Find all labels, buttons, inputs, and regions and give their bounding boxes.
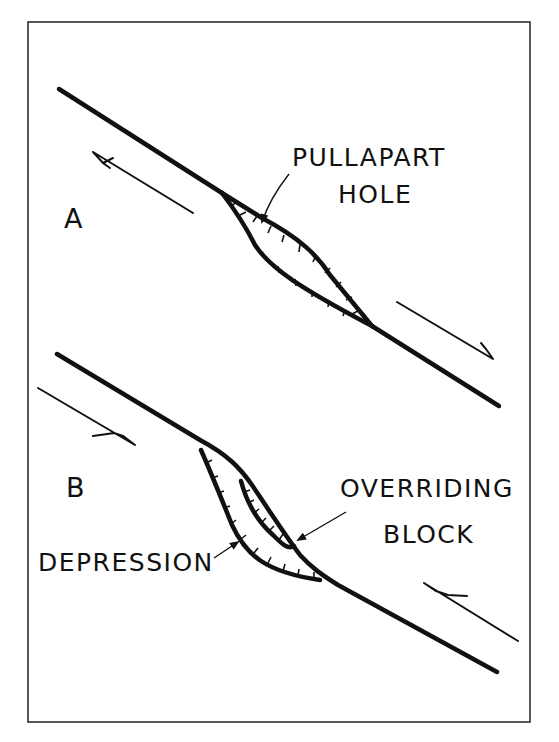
overriding-label-line2: BLOCK <box>383 520 474 549</box>
panel-a: A PULLAPART HOLE <box>59 89 499 406</box>
panel-b: B OVERRIDING BLOCK DEPRESSION <box>38 354 518 672</box>
overriding-block-leader <box>298 512 346 540</box>
pullapart-hachures <box>231 202 358 316</box>
fault-line-b <box>57 354 497 672</box>
depression-label: DEPRESSION <box>38 548 214 577</box>
pullapart-label-line2: HOLE <box>338 180 412 209</box>
pullapart-label-line1: PULLAPART <box>292 143 446 172</box>
pullapart-leader <box>262 174 289 222</box>
motion-arrow-b-lower <box>424 583 518 641</box>
panel-label-b: B <box>66 472 85 503</box>
figure-frame <box>28 22 530 722</box>
panel-label-a: A <box>64 203 83 234</box>
fault-line-a-upper <box>59 89 222 193</box>
motion-arrow-b-upper <box>38 388 135 445</box>
fault-diagram: A PULLAPART HOLE <box>0 0 559 742</box>
depression-leader <box>214 542 238 558</box>
overriding-label-line1: OVERRIDING <box>340 474 514 503</box>
motion-arrow-a-upper <box>93 152 193 213</box>
fault-line-a-lower <box>372 326 499 406</box>
